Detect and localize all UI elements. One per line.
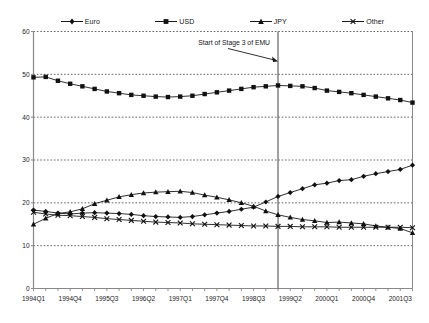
data-point-diamond bbox=[312, 182, 317, 187]
data-point-diamond bbox=[104, 211, 109, 216]
data-point-diamond bbox=[324, 181, 329, 186]
data-point-square bbox=[141, 94, 145, 98]
chart-plot-area: 0102030405060 1994Q11994Q41995Q31996Q219… bbox=[0, 0, 429, 323]
data-point-square bbox=[178, 94, 182, 98]
data-point-diamond bbox=[153, 214, 158, 219]
data-point-square bbox=[215, 90, 219, 94]
data-point-diamond bbox=[300, 186, 305, 191]
data-point-square bbox=[92, 87, 96, 91]
series-line bbox=[34, 77, 413, 103]
series-usd bbox=[31, 75, 414, 105]
annotation-arrow-head bbox=[272, 57, 278, 63]
data-point-square bbox=[386, 96, 390, 100]
chart-container: Euro USD JPY bbox=[0, 0, 429, 323]
data-point-diamond bbox=[227, 209, 232, 214]
data-point-diamond bbox=[92, 210, 97, 215]
x-tick-label: 1999Q2 bbox=[279, 295, 303, 303]
data-point-diamond bbox=[129, 212, 134, 217]
data-point-square bbox=[312, 86, 316, 90]
data-point-square bbox=[337, 90, 341, 94]
x-tick-label: 1994Q1 bbox=[22, 295, 46, 303]
x-tick-label: 1997Q4 bbox=[205, 295, 229, 303]
data-point-diamond bbox=[178, 215, 183, 220]
x-axis-ticks: 1994Q11994Q41995Q31996Q21997Q11997Q41998… bbox=[22, 289, 413, 303]
series-line bbox=[34, 165, 413, 217]
data-point-square bbox=[361, 93, 365, 97]
data-point-square bbox=[166, 95, 170, 99]
y-axis-ticks: 0102030405060 bbox=[22, 28, 33, 292]
data-point-square bbox=[117, 91, 121, 95]
data-point-square bbox=[264, 84, 268, 88]
data-point-triangle bbox=[80, 206, 85, 211]
data-point-diamond bbox=[361, 174, 366, 179]
data-point-square bbox=[276, 83, 280, 87]
y-tick-label: 0 bbox=[26, 285, 30, 292]
data-point-diamond bbox=[202, 212, 207, 217]
data-point-square bbox=[300, 84, 304, 88]
data-point-square bbox=[31, 75, 35, 79]
series-euro bbox=[31, 163, 415, 220]
data-point-diamond bbox=[116, 211, 121, 216]
y-tick-label: 60 bbox=[22, 28, 30, 35]
data-point-diamond bbox=[263, 199, 268, 204]
data-point-diamond bbox=[214, 211, 219, 216]
axes bbox=[34, 32, 413, 289]
x-tick-label: 1996Q2 bbox=[132, 295, 156, 303]
y-tick-label: 30 bbox=[22, 156, 30, 163]
data-point-square bbox=[288, 84, 292, 88]
y-tick-label: 10 bbox=[22, 242, 30, 249]
x-tick-label: 1998Q3 bbox=[242, 295, 266, 303]
data-point-square bbox=[190, 94, 194, 98]
data-point-square bbox=[325, 88, 329, 92]
x-tick-label: 1994Q4 bbox=[59, 295, 83, 303]
y-tick-label: 40 bbox=[22, 114, 30, 121]
x-tick-label: 2000Q4 bbox=[352, 295, 376, 303]
grid-lines bbox=[34, 32, 413, 246]
data-point-diamond bbox=[385, 169, 390, 174]
data-point-diamond bbox=[337, 178, 342, 183]
series-jpy bbox=[31, 188, 415, 235]
data-point-square bbox=[227, 88, 231, 92]
data-point-square bbox=[44, 75, 48, 79]
data-point-square bbox=[239, 87, 243, 91]
data-point-diamond bbox=[349, 177, 354, 182]
data-point-square bbox=[105, 89, 109, 93]
x-tick-label: 2000Q1 bbox=[315, 295, 339, 303]
data-point-diamond bbox=[141, 213, 146, 218]
data-point-diamond bbox=[373, 171, 378, 176]
series-line bbox=[34, 212, 413, 227]
annotation-label: Start of Stage 3 of EMU bbox=[198, 39, 270, 47]
data-point-square bbox=[80, 84, 84, 88]
x-tick-label: 1997Q1 bbox=[169, 295, 193, 303]
x-tick-label: 2001Q3 bbox=[389, 295, 413, 303]
data-point-diamond bbox=[275, 194, 280, 199]
data-point-square bbox=[251, 85, 255, 89]
data-point-square bbox=[398, 98, 402, 102]
y-tick-label: 50 bbox=[22, 71, 30, 78]
annotation-arrow-shaft bbox=[228, 49, 277, 61]
y-tick-label: 20 bbox=[22, 199, 30, 206]
data-point-square bbox=[202, 92, 206, 96]
data-point-square bbox=[154, 94, 158, 98]
x-tick-label: 1995Q3 bbox=[95, 295, 119, 303]
data-point-diamond bbox=[165, 214, 170, 219]
data-point-diamond bbox=[190, 214, 195, 219]
data-point-square bbox=[349, 91, 353, 95]
data-series bbox=[31, 75, 415, 235]
data-point-triangle bbox=[31, 221, 36, 226]
data-point-diamond bbox=[288, 190, 293, 195]
data-point-diamond bbox=[398, 167, 403, 172]
data-point-diamond bbox=[410, 163, 415, 168]
data-point-square bbox=[410, 100, 414, 104]
data-point-square bbox=[56, 79, 60, 83]
data-point-diamond bbox=[239, 207, 244, 212]
data-point-square bbox=[374, 94, 378, 98]
data-point-square bbox=[129, 93, 133, 97]
data-point-square bbox=[68, 82, 72, 86]
